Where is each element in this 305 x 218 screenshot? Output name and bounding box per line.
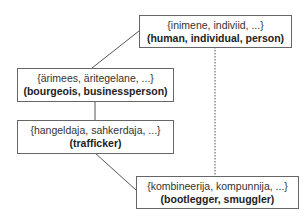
node-synset: {hangeldaja, sahkerdaja, ...} bbox=[30, 124, 160, 137]
node-human: {inimene, indiviid, ...} (human, individ… bbox=[139, 15, 292, 48]
node-trafficker: {hangeldaja, sahkerdaja, ...} (trafficke… bbox=[17, 120, 174, 154]
node-bourgeois: {ärimees, äritegelane, ...} (bourgeois, … bbox=[17, 68, 174, 102]
node-gloss: (human, individual, person) bbox=[147, 32, 284, 45]
node-synset: {ärimees, äritegelane, ...} bbox=[37, 72, 154, 85]
node-gloss: (bourgeois, businessperson) bbox=[23, 85, 167, 98]
node-synset: {inimene, indiviid, ...} bbox=[167, 19, 263, 32]
edge-bourgeois-human bbox=[92, 31, 139, 68]
edge-bootlegger-trafficker bbox=[95, 153, 136, 190]
node-gloss: (bootlegger, smuggler) bbox=[161, 193, 275, 206]
node-gloss: (trafficker) bbox=[70, 137, 122, 150]
node-synset: {kombineerija, kompunnija, ...} bbox=[147, 180, 288, 193]
node-bootlegger: {kombineerija, kompunnija, ...} (bootleg… bbox=[136, 176, 299, 209]
